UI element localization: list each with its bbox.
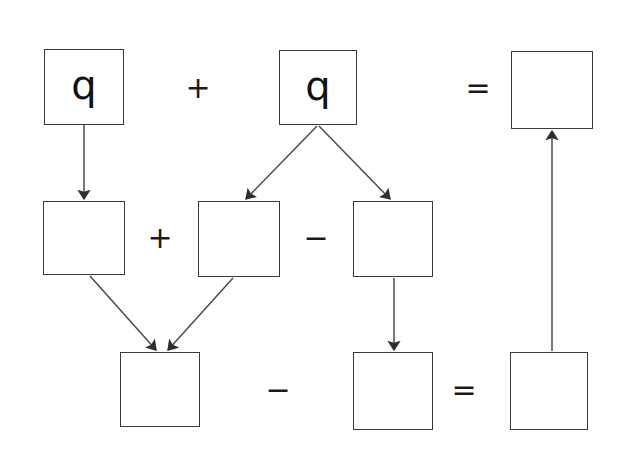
arrow-midleft-to-bottomleft — [90, 276, 156, 350]
box-mid-left[interactable] — [43, 201, 125, 275]
box-top-middle-label: q — [305, 66, 330, 106]
arrow-topmiddle-to-midright — [319, 126, 390, 199]
box-bottom-right[interactable] — [510, 352, 588, 430]
box-top-left-label: q — [71, 65, 96, 105]
op-top-equals: = — [458, 70, 498, 106]
diagram-canvas: qq +=+−−= — [0, 0, 625, 452]
box-top-middle[interactable]: q — [279, 50, 357, 125]
box-top-right[interactable] — [511, 51, 593, 129]
box-top-left[interactable]: q — [44, 49, 124, 125]
box-bottom-center[interactable] — [353, 352, 433, 430]
op-bottom-equals: = — [444, 372, 484, 408]
box-mid-center[interactable] — [198, 201, 280, 277]
op-bottom-minus: − — [258, 372, 298, 408]
box-mid-right[interactable] — [353, 201, 433, 277]
arrow-midcenter-to-bottomleft — [168, 278, 233, 350]
box-bottom-left[interactable] — [120, 352, 200, 427]
op-top-plus: + — [178, 70, 218, 106]
op-mid-plus: + — [140, 220, 180, 256]
arrow-topmiddle-to-midcenter — [246, 126, 317, 199]
op-mid-minus: − — [296, 220, 336, 256]
